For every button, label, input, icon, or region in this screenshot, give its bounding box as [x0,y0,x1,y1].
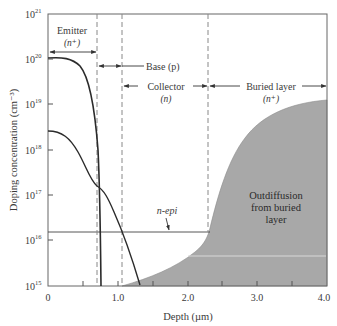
y-tick-labels: 1021 1020 1019 1018 1017 1016 1015 [25,7,42,292]
buried-label: Buried layer [246,81,296,92]
outdiffusion-label-line3: layer [266,214,287,225]
y-axis-label: Doping concentration (cm⁻³) [8,88,20,211]
svg-text:1018: 1018 [25,143,42,156]
base-label: Base (p) [146,61,180,73]
n-epi-arrow [166,218,169,230]
collector-label: Collector [147,81,185,92]
emitter-label: Emitter [57,25,88,36]
outdiffusion-label-line1: Outdiffusion [249,190,303,201]
svg-text:1020: 1020 [25,52,42,65]
y-axis-ticks [48,59,53,240]
x-tick-3: 3.0 [251,292,264,303]
collector-sub-label: (n) [160,94,171,105]
x-tick-2: 2.0 [182,292,195,303]
svg-text:1021: 1021 [25,7,42,20]
outdiffusion-label-line2: from buried [251,202,302,213]
svg-text:1017: 1017 [25,188,42,201]
doping-profile-chart: 0 1.0 2.0 3.0 4.0 Depth (µm) 1021 1020 1… [0,0,337,326]
x-tick-4: 4.0 [318,292,331,303]
svg-text:1015: 1015 [25,279,42,292]
emitter-curve [48,58,101,286]
base-curve [48,131,140,285]
emitter-sub-label: (n⁺) [64,38,80,49]
x-tick-0: 0 [46,292,51,303]
x-axis-label: Depth (µm) [163,311,213,323]
n-epi-label: n-epi [157,205,178,216]
svg-text:1016: 1016 [25,233,42,246]
buried-sub-label: (n⁺) [263,94,279,105]
x-tick-1: 1.0 [112,292,125,303]
svg-text:1019: 1019 [25,97,42,110]
